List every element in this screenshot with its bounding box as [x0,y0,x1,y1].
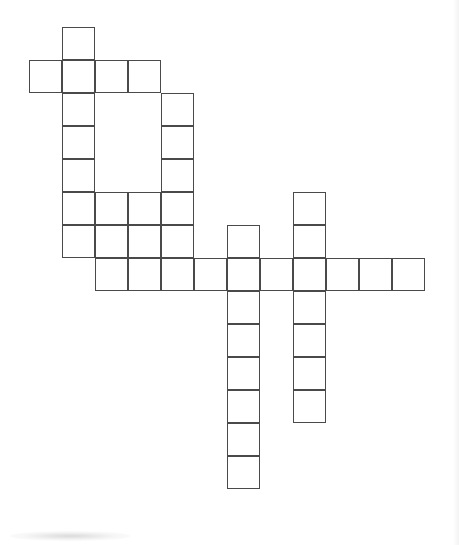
crossword-cell[interactable] [227,390,260,423]
crossword-grid[interactable] [0,0,459,545]
crossword-cell[interactable] [293,291,326,324]
crossword-cell-letter [294,292,325,323]
crossword-cell[interactable] [161,126,194,159]
crossword-cell-letter [63,193,94,224]
crossword-cell[interactable] [161,93,194,126]
crossword-cell[interactable] [62,27,95,60]
crossword-cell-letter [162,160,193,191]
crossword-cell[interactable] [227,291,260,324]
crossword-cell[interactable] [62,126,95,159]
crossword-cell[interactable] [62,225,95,258]
crossword-cell-letter [63,28,94,59]
crossword-cell[interactable] [128,258,161,291]
crossword-cell-letter [162,94,193,125]
crossword-cell[interactable] [293,258,326,291]
crossword-cell[interactable] [227,324,260,357]
crossword-cell-letter [294,193,325,224]
crossword-cell[interactable] [260,258,293,291]
crossword-cell[interactable] [359,258,392,291]
crossword-cell-letter [228,358,259,389]
crossword-cell[interactable] [227,258,260,291]
crossword-cell[interactable] [128,192,161,225]
crossword-cell-letter [294,226,325,257]
crossword-cell[interactable] [293,390,326,423]
crossword-cell-letter [294,325,325,356]
crossword-cell-letter [162,259,193,290]
crossword-cell-letter [195,259,226,290]
crossword-cell-letter [228,424,259,455]
crossword-cell[interactable] [128,60,161,93]
crossword-cell[interactable] [392,258,425,291]
crossword-cell[interactable] [293,357,326,390]
crossword-cell-letter [63,61,94,92]
crossword-puzzle [0,0,459,545]
crossword-cell-letter [96,61,127,92]
crossword-cell-letter [96,193,127,224]
crossword-cell[interactable] [95,60,128,93]
crossword-cell-letter [294,358,325,389]
crossword-cell[interactable] [161,192,194,225]
crossword-cell[interactable] [62,159,95,192]
crossword-cell-letter [63,160,94,191]
crossword-cell-letter [30,61,61,92]
crossword-cell-letter [360,259,391,290]
crossword-cell[interactable] [227,357,260,390]
crossword-cell[interactable] [194,258,227,291]
crossword-cell-letter [228,457,259,488]
crossword-cell-letter [63,94,94,125]
crossword-cell[interactable] [95,192,128,225]
crossword-cell[interactable] [62,192,95,225]
crossword-cell-letter [162,127,193,158]
crossword-cell-letter [129,61,160,92]
crossword-cell[interactable] [227,423,260,456]
crossword-cell-letter [63,127,94,158]
crossword-cell[interactable] [95,225,128,258]
crossword-cell[interactable] [128,225,161,258]
crossword-cell[interactable] [161,225,194,258]
crossword-cell[interactable] [326,258,359,291]
crossword-cell-letter [228,325,259,356]
crossword-cell[interactable] [29,60,62,93]
crossword-cell[interactable] [62,60,95,93]
crossword-cell-letter [129,226,160,257]
crossword-cell-letter [162,193,193,224]
crossword-cell[interactable] [62,93,95,126]
crossword-cell-letter [228,292,259,323]
crossword-cell[interactable] [293,225,326,258]
crossword-cell-letter [393,259,424,290]
crossword-cell-letter [228,259,259,290]
crossword-cell-letter [96,226,127,257]
crossword-cell-letter [327,259,358,290]
crossword-cell-letter [228,391,259,422]
crossword-cell[interactable] [161,258,194,291]
crossword-cell-letter [294,391,325,422]
crossword-cell-letter [294,259,325,290]
crossword-cell-letter [63,226,94,257]
crossword-cell[interactable] [227,225,260,258]
crossword-cell-letter [261,259,292,290]
crossword-cell[interactable] [95,258,128,291]
crossword-cell[interactable] [161,159,194,192]
crossword-cell-letter [162,226,193,257]
crossword-cell[interactable] [227,456,260,489]
crossword-cell[interactable] [293,192,326,225]
crossword-cell-letter [129,193,160,224]
crossword-cell-letter [228,226,259,257]
crossword-cell-letter [96,259,127,290]
crossword-cell[interactable] [293,324,326,357]
crossword-cell-letter [129,259,160,290]
